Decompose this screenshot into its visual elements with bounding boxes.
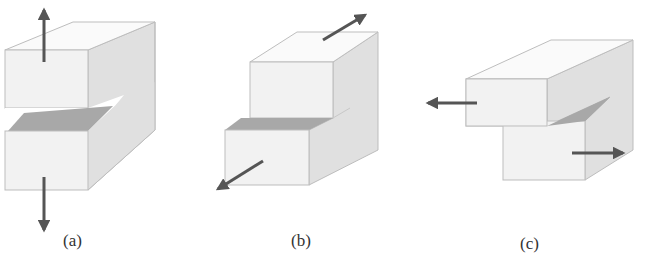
panel-a-label: (a) [63, 231, 82, 250]
panel-c-label: (c) [520, 234, 539, 253]
panel-b-label: (b) [291, 231, 311, 250]
block-c-upper-front-overlay [466, 79, 547, 126]
block-a-upper-front [5, 50, 88, 108]
block-a-lower-front [5, 131, 88, 190]
block-c-lower-front [503, 121, 585, 180]
block-b-upper-front [250, 62, 333, 118]
panel-c: (c) [428, 40, 633, 253]
panel-a: (a) [5, 10, 155, 250]
fracture-modes-diagram: (a) (b) (c) [0, 0, 648, 259]
panel-b: (b) [218, 15, 378, 250]
